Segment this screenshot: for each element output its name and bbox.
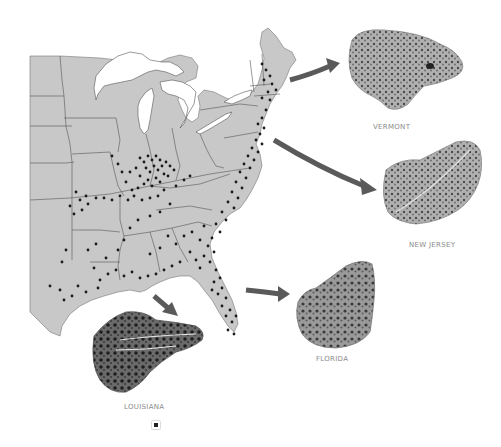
frog-louisiana-illustration [93,312,203,393]
range-map [0,0,501,447]
square-bullet-icon [151,420,161,430]
figure: VERMONT NEW JERSEY FLORIDA LOUISIANA [0,0,501,447]
frog-florida-illustration [297,261,375,348]
arrow-to-florida-icon [246,286,290,302]
specimen-label-louisiana: LOUISIANA [124,403,164,411]
arrow-to-vermont-icon [290,58,340,80]
frog-new-jersey-illustration [383,141,481,224]
specimen-label-new-jersey: NEW JERSEY [409,241,455,249]
specimen-label-florida: FLORIDA [316,355,348,363]
arrow-to-louisiana-icon [154,296,178,316]
specimen-label-vermont: VERMONT [373,123,410,131]
arrow-to-new-jersey-icon [274,140,377,195]
frog-vermont-illustration [349,30,463,110]
